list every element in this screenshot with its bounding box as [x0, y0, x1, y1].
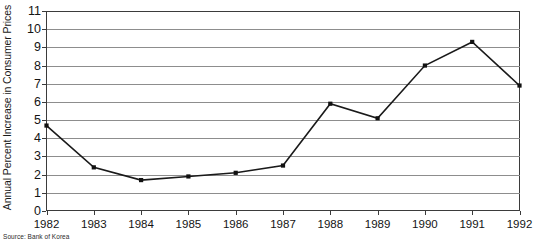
- y-tick-label: 0: [19, 204, 41, 218]
- data-point-marker: [328, 102, 332, 106]
- x-tick-label: 1988: [307, 218, 353, 230]
- y-axis-title: Annual Percent Increase in Consumer Pric…: [0, 0, 14, 215]
- x-tick-mark: [94, 211, 95, 215]
- x-tick-mark: [47, 211, 48, 215]
- data-point-marker: [281, 163, 285, 167]
- x-tick-mark: [378, 211, 379, 215]
- data-point-marker: [92, 165, 96, 169]
- data-point-marker: [517, 83, 521, 87]
- x-tick-mark: [472, 211, 473, 215]
- x-tick-label: 1987: [260, 218, 306, 230]
- data-series-line: [46, 11, 520, 211]
- x-tick-label: 1986: [213, 218, 259, 230]
- x-tick-label: 1989: [355, 218, 401, 230]
- data-point-marker: [234, 171, 238, 175]
- x-tick-mark: [520, 211, 521, 215]
- y-tick-label: 11: [19, 4, 41, 18]
- series-polyline: [47, 42, 520, 180]
- x-tick-label: 1991: [449, 218, 495, 230]
- data-point-marker: [470, 40, 474, 44]
- y-tick-label: 6: [19, 95, 41, 109]
- x-tick-mark: [188, 211, 189, 215]
- x-tick-label: 1984: [118, 218, 164, 230]
- x-tick-label: 1990: [402, 218, 448, 230]
- data-point-marker: [186, 174, 190, 178]
- y-tick-mark: [42, 211, 46, 212]
- y-tick-label: 7: [19, 77, 41, 91]
- x-tick-label: 1983: [71, 218, 117, 230]
- data-point-marker: [376, 116, 380, 120]
- plot-area: [46, 11, 520, 211]
- y-tick-label: 2: [19, 168, 41, 182]
- source-note: Source: Bank of Korea: [3, 233, 69, 240]
- chart-figure: Annual Percent Increase in Consumer Pric…: [0, 0, 541, 244]
- x-tick-label: 1992: [497, 218, 541, 230]
- x-tick-mark: [236, 211, 237, 215]
- data-point-marker: [44, 123, 48, 127]
- y-tick-label: 1: [19, 186, 41, 200]
- y-tick-label: 3: [19, 149, 41, 163]
- x-tick-mark: [425, 211, 426, 215]
- x-tick-mark: [141, 211, 142, 215]
- y-tick-label: 5: [19, 113, 41, 127]
- x-tick-mark: [330, 211, 331, 215]
- x-tick-label: 1985: [165, 218, 211, 230]
- data-point-marker: [423, 63, 427, 67]
- y-tick-label: 10: [19, 22, 41, 36]
- data-point-marker: [139, 178, 143, 182]
- series-markers: [44, 40, 521, 182]
- y-tick-label: 8: [19, 59, 41, 73]
- x-tick-mark: [283, 211, 284, 215]
- y-tick-label: 4: [19, 131, 41, 145]
- x-tick-label: 1982: [24, 218, 70, 230]
- y-tick-label: 9: [19, 40, 41, 54]
